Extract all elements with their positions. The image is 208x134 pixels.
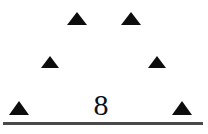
triangle-marker-bottom-right [172, 101, 192, 115]
baseline-rule [3, 122, 203, 125]
triangle-marker-top-right [121, 12, 141, 25]
value-label-8: 8 [86, 90, 116, 120]
triangle-marker-top-left [67, 12, 87, 25]
triangle-marker-bottom-left [9, 101, 29, 115]
triangle-marker-middle-left [41, 56, 59, 68]
triangle-marker-middle-right [148, 56, 166, 68]
figure-canvas: 8 [0, 0, 208, 134]
